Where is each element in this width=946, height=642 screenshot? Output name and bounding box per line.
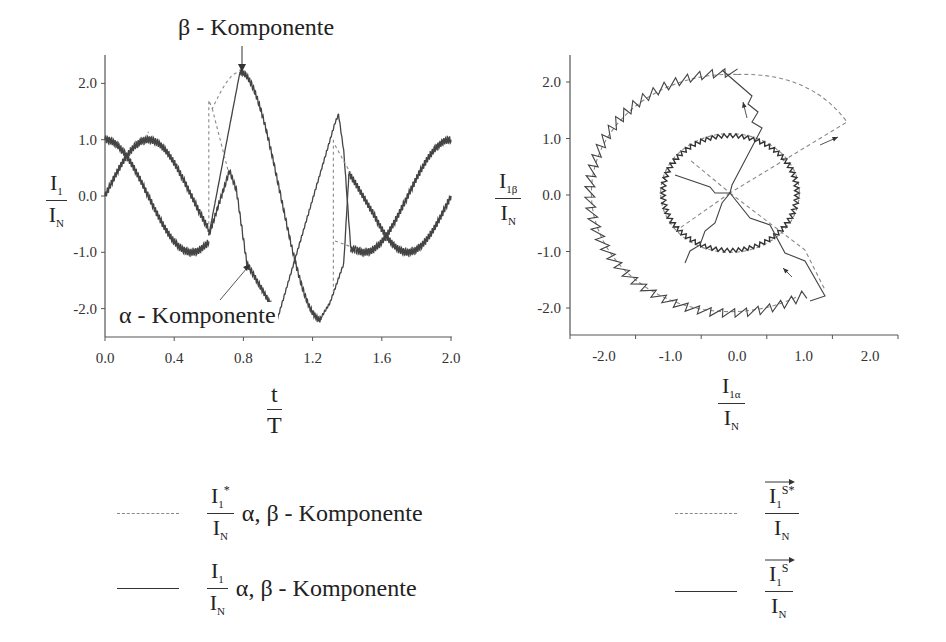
xlabel-den: T xyxy=(267,410,282,437)
ylabel-den: I xyxy=(501,200,508,225)
ylabel-num-sub: 1 xyxy=(57,185,63,197)
num-sup: S* xyxy=(782,483,795,497)
vector-arrow-icon xyxy=(765,556,795,564)
right-chart-svg: 2.01.00.0-1.0-2.0 -2.0-1.00.01.02.0 xyxy=(480,0,946,440)
left-x-axis-label: t T xyxy=(267,382,282,437)
beta-arrow-head-icon xyxy=(238,64,246,72)
svg-text:2.0: 2.0 xyxy=(542,74,561,90)
left-y-ticks: 2.01.00.0-1.0-2.0 xyxy=(73,75,105,316)
legend-item-actual-components: I1 IN α, β - Komponente xyxy=(117,560,417,617)
left-chart-svg: 2.01.00.0-1.0-2.0 0.00.40.81.21.62.0 xyxy=(0,0,480,440)
left-x-ticks: 0.00.40.81.21.62.0 xyxy=(96,337,461,366)
svg-text:0.0: 0.0 xyxy=(96,350,115,366)
left-curves xyxy=(105,70,451,323)
ylabel-den-sub: N xyxy=(508,215,516,227)
svg-text:1.2: 1.2 xyxy=(303,350,322,366)
right-y-ticks: 2.01.00.0-1.0-2.0 xyxy=(537,74,570,316)
alpha-steady-1 xyxy=(105,137,209,256)
legend-dashed-line xyxy=(675,513,737,514)
alpha-arrow xyxy=(220,268,247,300)
legend-item-reference-vector: I1S* IN xyxy=(675,484,799,542)
svg-text:2.0: 2.0 xyxy=(442,350,461,366)
legend-solid-line xyxy=(117,588,179,589)
svg-text:2.0: 2.0 xyxy=(78,75,97,91)
legend-fraction: I1 IN xyxy=(207,560,228,617)
right-y-axis-label: I1β IN xyxy=(495,170,521,227)
right-x-axis-label: I1α IN xyxy=(718,375,745,432)
beta-component-label: β - Komponente xyxy=(178,14,334,41)
legend-text: α, β - Komponente xyxy=(242,500,423,527)
svg-text:1.6: 1.6 xyxy=(372,350,391,366)
num-sub: 1 xyxy=(218,498,224,510)
svg-text:0.8: 0.8 xyxy=(234,350,253,366)
legend-fraction: I1S* IN xyxy=(765,484,799,542)
num-sub: 1 xyxy=(218,573,224,585)
xlabel-den-sub: N xyxy=(731,420,739,432)
num-sub: 1 xyxy=(776,498,782,510)
svg-text:0.0: 0.0 xyxy=(78,188,97,204)
left-chart: 2.01.00.0-1.0-2.0 0.00.40.81.21.62.0 β -… xyxy=(0,0,480,440)
den-sub: N xyxy=(778,608,786,620)
svg-text:2.0: 2.0 xyxy=(861,348,880,364)
svg-text:-2.0: -2.0 xyxy=(537,300,561,316)
num-sub: 1 xyxy=(776,576,782,588)
right-chart: 2.01.00.0-1.0-2.0 -2.0-1.00.01.02.0 I1β … xyxy=(480,0,946,440)
svg-text:-2.0: -2.0 xyxy=(73,301,97,317)
ylabel-den: I xyxy=(49,202,56,227)
ylabel-den-sub: N xyxy=(56,217,64,229)
svg-text:1.0: 1.0 xyxy=(542,131,561,147)
alpha-component-label: α - Komponente xyxy=(117,302,278,329)
svg-text:1.0: 1.0 xyxy=(78,132,97,148)
den: I xyxy=(213,515,220,540)
den: I xyxy=(210,590,217,615)
svg-text:-1.0: -1.0 xyxy=(537,244,561,260)
xlabel-num: t xyxy=(267,382,282,410)
right-curves xyxy=(585,69,847,317)
den-sub: N xyxy=(781,530,789,542)
legend-item-actual-vector: I1S IN xyxy=(675,562,793,620)
legend-fraction: I1S IN xyxy=(765,562,793,620)
svg-text:-1.0: -1.0 xyxy=(73,244,97,260)
svg-text:0.0: 0.0 xyxy=(542,187,561,203)
num-sup: S xyxy=(782,561,789,575)
ylabel-num-sub: 1β xyxy=(506,183,517,195)
left-y-axis-label: I1 IN xyxy=(46,172,67,229)
svg-text:0.4: 0.4 xyxy=(165,350,184,366)
svg-text:-1.0: -1.0 xyxy=(659,348,683,364)
num-sup: * xyxy=(224,483,230,497)
svg-text:1.0: 1.0 xyxy=(794,348,813,364)
den-sub: N xyxy=(217,605,225,617)
legend-item-reference-components: I1* IN α, β - Komponente xyxy=(117,484,423,542)
right-x-ticks: -2.0-1.00.01.02.0 xyxy=(570,335,898,364)
xlabel-den: I xyxy=(724,405,731,430)
svg-text:0.0: 0.0 xyxy=(728,348,747,364)
svg-text:-2.0: -2.0 xyxy=(592,348,616,364)
xlabel-num-sub: 1α xyxy=(729,388,740,400)
den-sub: N xyxy=(220,530,228,542)
legend-dashed-line xyxy=(117,513,179,514)
legend-solid-line xyxy=(675,591,737,592)
legend-fraction: I1* IN xyxy=(207,484,234,542)
legend-text: α, β - Komponente xyxy=(236,575,417,602)
